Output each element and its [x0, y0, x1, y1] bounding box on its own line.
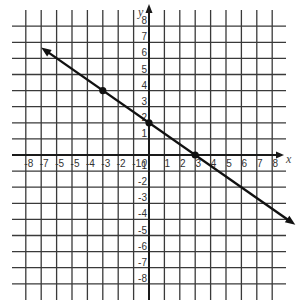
y-tick-label: -2: [138, 176, 147, 187]
data-point: [192, 151, 199, 158]
y-axis-label: y: [137, 5, 144, 19]
x-tick-label: 6: [242, 158, 248, 169]
x-tick-label: 7: [257, 158, 263, 169]
y-tick-label: 1: [141, 128, 147, 139]
data-point: [99, 87, 106, 94]
tick-labels: -8-7-5-5-4-3-2-101234567887654321-1-2-3-…: [24, 15, 278, 284]
y-tick-label: -5: [138, 225, 147, 236]
y-tick-label: -1: [138, 160, 147, 171]
x-tick-label: -5: [55, 158, 64, 169]
y-tick-label: -6: [138, 241, 147, 252]
y-tick-label: -7: [138, 257, 147, 268]
x-tick-label: -2: [117, 158, 126, 169]
y-tick-label: 7: [141, 31, 147, 42]
line-segment: [47, 52, 289, 221]
y-axis-arrow-icon: [146, 4, 153, 13]
x-tick-label: 5: [226, 158, 232, 169]
x-tick-label: -8: [24, 158, 33, 169]
arrowhead-right-icon: [285, 216, 295, 225]
y-tick-label: 3: [141, 96, 147, 107]
x-tick-label: -4: [86, 158, 95, 169]
x-tick-label: 1: [165, 158, 171, 169]
coordinate-plane: -8-7-5-5-4-3-2-101234567887654321-1-2-3-…: [0, 0, 298, 302]
y-tick-label: 4: [141, 80, 147, 91]
x-tick-label: 8: [272, 158, 278, 169]
y-tick-label: 5: [141, 64, 147, 75]
x-tick-label: -7: [40, 158, 49, 169]
x-tick-label: -3: [101, 158, 110, 169]
axes: [12, 4, 284, 300]
y-tick-label: -4: [138, 208, 147, 219]
y-tick-label: -3: [138, 192, 147, 203]
y-tick-label: -8: [138, 273, 147, 284]
x-tick-label: 2: [180, 158, 186, 169]
arrowhead-left-icon: [41, 48, 51, 57]
x-axis-label: x: [285, 152, 292, 166]
y-tick-label: 6: [141, 47, 147, 58]
x-tick-label: -5: [71, 158, 80, 169]
data-point: [145, 119, 152, 126]
